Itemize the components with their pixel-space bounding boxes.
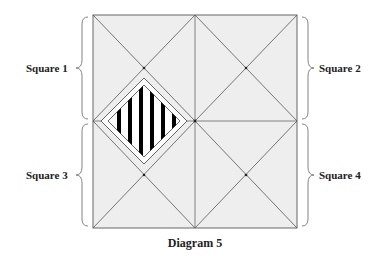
brace-square-2 <box>302 17 314 119</box>
label-square-2: Square 2 <box>319 62 361 74</box>
diagram-figure <box>0 0 390 261</box>
brace-square-3 <box>76 124 88 226</box>
label-square-4: Square 4 <box>319 169 361 181</box>
diagram-caption: Diagram 5 <box>0 236 390 251</box>
label-square-3: Square 3 <box>26 169 68 181</box>
label-square-1: Square 1 <box>26 62 68 74</box>
brace-square-1 <box>76 17 88 119</box>
brace-square-4 <box>302 124 314 226</box>
